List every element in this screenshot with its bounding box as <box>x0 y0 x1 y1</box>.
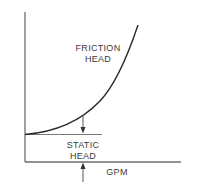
friction-head-label-line1: FRICTION <box>76 43 121 53</box>
static-head-label-line1: STATIC <box>67 140 100 150</box>
system-curve-diagram: TOTAL HEAD IN FEET FRICTION HEAD STATIC … <box>0 0 198 189</box>
friction-head-label-line2: HEAD <box>85 54 111 64</box>
system-curve <box>25 25 138 135</box>
arrow-down-icon <box>81 116 86 134</box>
static-head-label-line2: HEAD <box>70 151 96 161</box>
arrow-up-icon <box>81 163 86 183</box>
x-axis-label: GPM <box>106 167 127 177</box>
